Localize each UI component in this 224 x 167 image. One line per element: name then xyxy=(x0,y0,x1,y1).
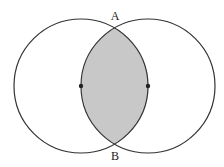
label-a: A xyxy=(111,9,120,23)
venn-diagram: A B xyxy=(0,0,224,167)
label-b: B xyxy=(111,149,119,163)
left-center-dot xyxy=(79,84,83,88)
right-center-dot xyxy=(146,84,150,88)
shaded-lens xyxy=(82,28,149,144)
